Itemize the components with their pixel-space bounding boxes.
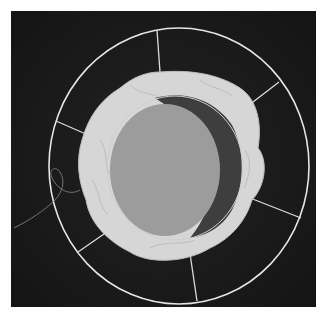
inner-center-disc [110,104,220,236]
loose-thread [14,169,80,228]
wire-frame-illustration [0,0,327,318]
